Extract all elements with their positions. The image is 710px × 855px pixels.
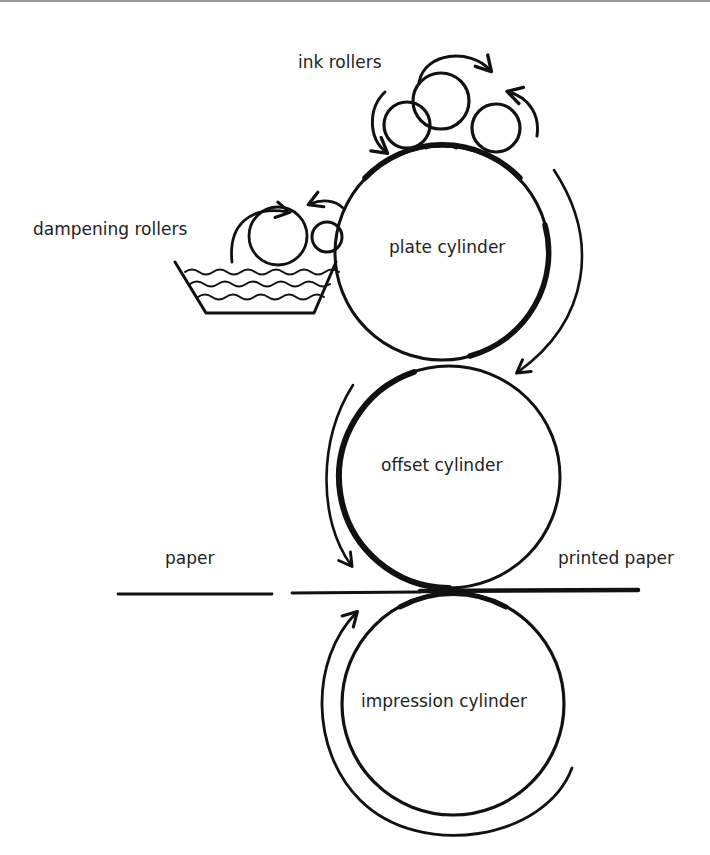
rotation-arrow-icon	[232, 211, 288, 262]
label-dampening-rollers: dampening rollers	[33, 219, 187, 239]
label-plate-cylinder: plate cylinder	[389, 237, 505, 257]
label-paper: paper	[165, 548, 214, 568]
water-tray	[175, 262, 336, 313]
rotation-arrow-icon	[310, 201, 343, 208]
ink-rollers	[372, 56, 537, 152]
offset-cylinder	[326, 366, 560, 588]
paper-sheet-entering	[292, 592, 420, 593]
paper-path	[118, 590, 638, 594]
water-waves	[198, 295, 324, 300]
water-waves	[190, 282, 330, 287]
water-waves	[185, 270, 339, 275]
label-impression-cylinder: impression cylinder	[361, 691, 527, 711]
label-ink-rollers: ink rollers	[298, 52, 382, 72]
impression-cylinder	[322, 593, 572, 835]
dampening-rollers	[175, 201, 343, 313]
offset-press-diagram: ink rollers plate cylinder dampening rol…	[0, 0, 710, 855]
rotation-arrow-icon	[509, 92, 538, 136]
dampening-roller-large	[249, 207, 307, 265]
label-offset-cylinder: offset cylinder	[381, 455, 502, 475]
label-printed-paper: printed paper	[558, 548, 674, 568]
ink-roller-top	[413, 73, 469, 129]
ink-roller-right	[472, 104, 520, 152]
printed-paper-sheet	[420, 590, 638, 591]
ink-roller-left	[384, 102, 430, 148]
plate-cylinder	[335, 145, 582, 372]
rotation-arrow-icon	[518, 170, 582, 372]
